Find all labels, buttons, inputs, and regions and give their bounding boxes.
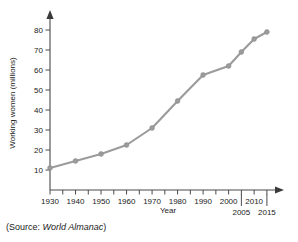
y-tick-label: 70 [34,46,43,55]
x-tick-label-primary: 1940 [67,197,85,206]
y-axis-title: Working women (millions) [8,57,17,149]
x-tick-label-secondary: 2005 [232,208,250,217]
x-tick-label-primary: 1960 [118,197,136,206]
data-point-marker [265,30,270,35]
line-chart: 1020304050607080 19301940195019601970198… [0,0,298,220]
x-tick-label-primary: 2000 [220,197,238,206]
x-tick-label-primary: 1930 [41,197,59,206]
x-axis-arrow-icon [275,186,284,193]
source-prefix: (Source: [6,222,43,232]
data-point-marker [252,37,257,42]
data-point-marker [201,73,206,78]
axes [46,10,284,194]
source-suffix: ) [103,222,106,232]
x-tick-label-primary: 1950 [92,197,110,206]
y-tick-label: 30 [34,126,43,135]
data-point-marker [150,126,155,131]
data-point-marker [48,166,53,171]
x-tick-label-primary: 2010 [245,197,263,206]
data-point-marker [226,64,231,69]
source-caption: (Source: World Almanac) [6,222,106,232]
source-publication: World Almanac [43,222,104,232]
y-tick-label: 80 [34,26,43,35]
x-axis-title: Year [160,206,177,215]
data-point-marker [239,50,244,55]
x-tick-label-primary: 1980 [169,197,187,206]
y-tick-label: 60 [34,66,43,75]
x-tick-label-secondary: 2015 [258,208,276,217]
x-tick-label-primary: 1990 [194,197,212,206]
data-point-marker [99,152,104,157]
y-axis-arrow-icon [46,10,53,19]
y-tick-label: 10 [34,166,43,175]
y-tick-label: 40 [34,106,43,115]
data-point-marker [73,159,78,164]
data-series-line [50,32,267,168]
data-series-markers [48,30,270,171]
data-point-marker [175,99,180,104]
x-tick-label-primary: 1970 [143,197,161,206]
y-tick-label: 20 [34,146,43,155]
data-point-marker [124,143,129,148]
y-axis-ticks [46,30,51,170]
chart-figure: 1020304050607080 19301940195019601970198… [0,0,298,242]
y-axis-tick-labels: 1020304050607080 [34,26,43,175]
y-tick-label: 50 [34,86,43,95]
